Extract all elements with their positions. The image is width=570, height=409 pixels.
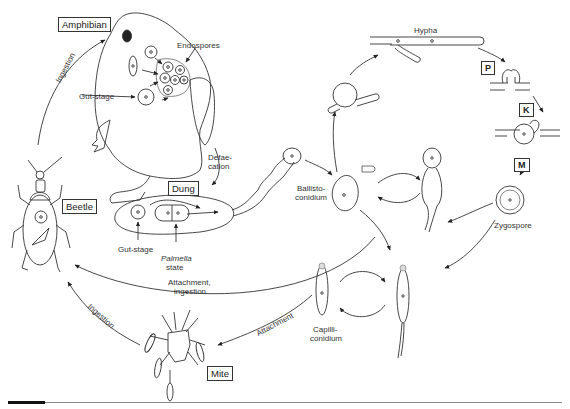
capilliconidium-label-2: conidium (310, 334, 342, 343)
stage-m-label: M (514, 158, 530, 172)
attachment-ingestion-label-2: ingestion (174, 287, 206, 296)
palmella-label: Palmella (161, 254, 192, 263)
zygospore-label: Zygospore (494, 221, 532, 230)
hypha-label: Hypha (414, 26, 437, 35)
beetle-drawing (12, 157, 70, 272)
ballistoconidium-label-1: Ballisto- (297, 184, 325, 193)
hypha-and-zygospore-drawing (370, 37, 560, 268)
attachment-ingestion-label-1: Attachment, (168, 278, 211, 287)
ballistoconidium-label-2: conidium (295, 193, 327, 202)
capilliconidium-drawing (316, 263, 409, 358)
amphibian-host-label: Amphibian (58, 17, 111, 32)
footer-rule (45, 402, 562, 403)
capilliconidium-label-1: Capilli- (313, 325, 337, 334)
defaecation-label-1: Defae- (208, 153, 232, 162)
gut-stage-frog-label: Gut-stage (79, 92, 114, 101)
stage-k-label: K (519, 103, 534, 117)
palmella-state-label: state (166, 263, 183, 272)
dung-label: Dung (168, 181, 199, 196)
beetle-host-label: Beetle (62, 199, 97, 214)
mite-drawing (143, 310, 205, 401)
defaecation-label-2: cation (208, 162, 229, 171)
gut-stage-dung-label: Gut-stage (118, 245, 153, 254)
mite-host-label: Mite (207, 366, 233, 381)
attachment-arc (218, 295, 312, 345)
ballistoconidium-drawing (305, 55, 442, 250)
footer-accent-bar (8, 401, 45, 404)
endospores-label: Endospores (177, 41, 220, 50)
stage-p-label: P (481, 61, 495, 75)
